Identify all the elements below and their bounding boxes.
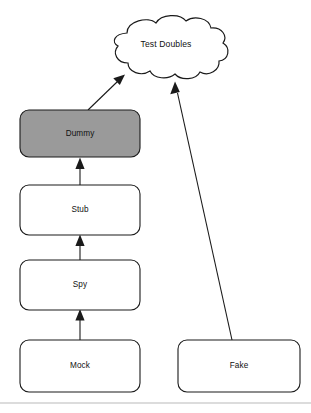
- node-fake-label: Fake: [230, 361, 249, 370]
- edge-spy-to-stub: [75, 235, 84, 261]
- edge-fake-to-cloud: [170, 82, 232, 341]
- node-dummy-label: Dummy: [66, 129, 96, 138]
- arrowhead-icon: [170, 82, 180, 95]
- arrowhead-icon: [75, 309, 84, 321]
- edge-dummy-to-cloud: [88, 75, 125, 111]
- node-stub-label: Stub: [71, 205, 89, 214]
- cloud-node-test-doubles[interactable]: Test Doubles: [114, 16, 228, 79]
- test-doubles-diagram: Test Doubles Dummy Stub Spy Mock Fake: [0, 0, 311, 413]
- node-dummy[interactable]: Dummy: [20, 110, 140, 157]
- node-mock[interactable]: Mock: [20, 340, 140, 392]
- cloud-label-test-doubles: Test Doubles: [141, 39, 192, 49]
- edge-stub-to-dummy: [75, 158, 84, 186]
- diagram-canvas: Test Doubles Dummy Stub Spy Mock Fake: [0, 0, 311, 413]
- edge-mock-to-spy: [75, 309, 84, 340]
- node-spy-label: Spy: [73, 280, 88, 289]
- node-mock-label: Mock: [70, 361, 91, 370]
- node-stub[interactable]: Stub: [20, 185, 140, 235]
- node-fake[interactable]: Fake: [178, 340, 300, 392]
- arrowhead-icon: [75, 235, 84, 247]
- node-spy[interactable]: Spy: [20, 260, 140, 310]
- arrowhead-icon: [75, 158, 84, 170]
